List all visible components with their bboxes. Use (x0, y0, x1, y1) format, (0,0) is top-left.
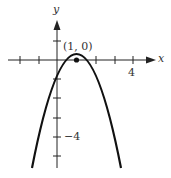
y-tick-label-neg4: −4 (64, 130, 80, 143)
y-axis-arrow-icon (54, 20, 61, 30)
vertex-dot (74, 57, 79, 62)
y-axis-label: y (53, 3, 59, 16)
vertex-label: (1, 0) (63, 40, 93, 53)
x-axis-arrow-icon (146, 57, 156, 64)
x-tick-label-4: 4 (128, 66, 135, 79)
parabola-curve (32, 54, 121, 168)
x-axis-label: x (158, 52, 164, 65)
parabola-graph (0, 0, 171, 178)
